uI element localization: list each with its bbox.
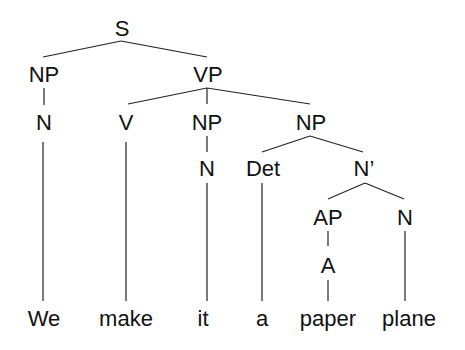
tree-edge [328,183,365,199]
word-make: make [99,306,153,331]
node-det: Det [246,156,280,181]
tree-nodes: SNPVPNVNPNPNDetN’APNA [29,16,413,278]
node-nbar: N’ [354,156,375,181]
word-a: a [256,306,269,331]
node-n3: N [397,205,413,230]
node-np3: NP [296,110,327,135]
tree-words: Wemakeitapaperplane [28,306,436,331]
word-paper: paper [300,306,356,331]
node-ap: AP [313,205,342,230]
node-np2: NP [192,110,223,135]
tree-edge [310,136,363,152]
node-a: A [321,253,336,278]
syntax-tree: SNPVPNVNPNPNDetN’APNA Wemakeitapaperplan… [0,0,465,350]
tree-edge [43,41,121,57]
node-n2: N [199,156,215,181]
node-vp: VP [193,62,222,87]
tree-edge [207,88,310,104]
word-plane: plane [382,306,436,331]
node-v: V [119,110,134,135]
node-np1: NP [29,62,60,87]
tree-edge [365,183,404,199]
node-n1: N [36,110,52,135]
node-s: S [115,16,130,41]
tree-edges [43,41,405,301]
word-it: it [198,306,209,331]
tree-edge [262,136,310,152]
tree-edge [121,41,207,57]
tree-edge [128,88,207,104]
word-We: We [28,306,61,331]
